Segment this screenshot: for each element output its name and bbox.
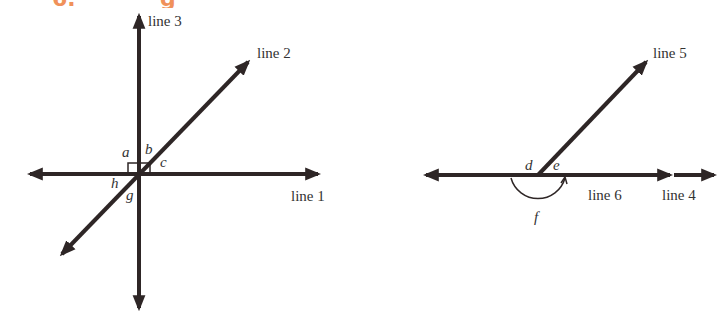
angle-h-label: h <box>111 175 119 191</box>
line-2-label: line 2 <box>257 45 291 61</box>
line-4-label: line 4 <box>662 187 696 203</box>
line-5-label: line 5 <box>653 45 687 61</box>
left-diagram: line 3 line 2 line 1 a b c g h <box>30 13 325 308</box>
angle-e-label: e <box>553 157 560 173</box>
line-1-label: line 1 <box>291 188 325 204</box>
angle-c-label: c <box>160 154 167 170</box>
angle-b-label: b <box>145 141 153 157</box>
angle-f-label: f <box>534 209 540 225</box>
angle-diagrams: line 3 line 2 line 1 a b c g h d e f lin… <box>0 0 728 325</box>
angle-d-label: d <box>525 157 533 173</box>
angle-f-arc <box>511 178 565 199</box>
line-6-label: line 6 <box>588 187 622 203</box>
right-diagram: d e f line 5 line 6 line 4 <box>426 45 714 225</box>
line-3-label: line 3 <box>148 13 182 29</box>
angle-g-label: g <box>126 187 134 203</box>
angle-a-label: a <box>122 144 130 160</box>
line-2 <box>62 62 248 254</box>
